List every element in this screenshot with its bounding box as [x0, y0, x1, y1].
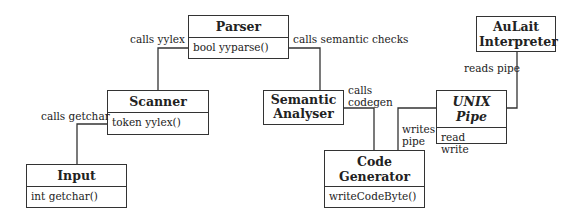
parser-class: Parser bool yyparse(): [188, 15, 289, 59]
scanner-name: Scanner: [108, 91, 208, 112]
label-calls-yylex: calls yylex: [130, 33, 185, 45]
unix-pipe-class: UNIX Pipe read write: [436, 90, 507, 144]
label-writes-pipe-2: pipe: [402, 135, 425, 147]
parser-op: bool yyparse(): [189, 37, 288, 56]
parser-scanner-link: [158, 48, 188, 90]
semantic-analyser-class: Semantic Analyser: [263, 90, 344, 125]
label-writes-pipe-1: writes: [402, 123, 435, 135]
input-class: Input int getchar(): [26, 164, 127, 208]
aulait-pipe-link: [507, 52, 517, 108]
scanner-class: Scanner token yylex(): [107, 90, 209, 135]
scanner-input-link: [77, 124, 107, 164]
semantic-name-line1: Semantic: [266, 93, 341, 107]
parser-semantic-link: [289, 48, 320, 90]
pipe-op-write: write: [441, 143, 502, 155]
code-generator-name: Code Generator: [325, 151, 424, 186]
codegen-name-line2: Generator: [327, 169, 422, 184]
semantic-name-line2: Analyser: [266, 107, 341, 121]
semantic-codegen-link: [344, 108, 374, 150]
input-op: int getchar(): [27, 186, 126, 205]
aulait-name-line2: Interpreter: [479, 34, 553, 49]
input-name: Input: [27, 165, 126, 186]
label-calls-getchar: calls getchar: [41, 110, 110, 122]
semantic-analyser-name: Semantic Analyser: [264, 91, 343, 123]
aulait-name: AuLait Interpreter: [477, 17, 555, 51]
unix-pipe-name: UNIX Pipe: [437, 91, 506, 127]
label-reads-pipe: reads pipe: [464, 62, 520, 74]
aulait-interpreter-class: AuLait Interpreter: [476, 16, 556, 52]
label-calls-codegen-1: calls: [348, 84, 372, 96]
label-calls-semantic-checks: calls semantic checks: [293, 33, 408, 45]
codegen-op: writeCodeByte(): [325, 186, 424, 205]
unix-pipe-ops: read write: [437, 127, 506, 158]
code-generator-class: Code Generator writeCodeByte(): [324, 150, 425, 208]
codegen-name-line1: Code: [327, 154, 422, 169]
parser-name: Parser: [189, 16, 288, 37]
label-calls-codegen-2: codegen: [348, 96, 393, 108]
aulait-name-line1: AuLait: [479, 19, 553, 34]
pipe-op-read: read: [441, 131, 502, 143]
scanner-op: token yylex(): [108, 112, 208, 131]
